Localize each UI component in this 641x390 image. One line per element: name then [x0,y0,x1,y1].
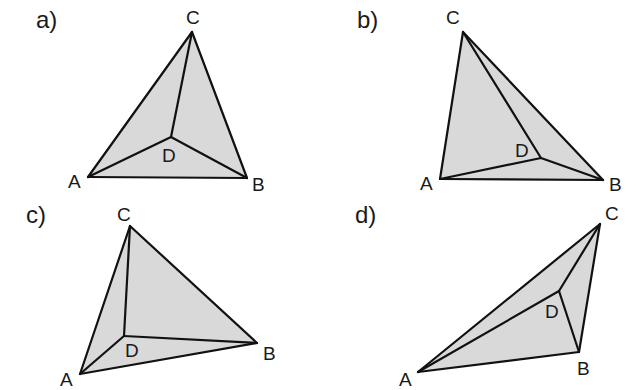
panel-label: c) [26,201,46,228]
vertex-label-c: C [186,7,200,28]
vertex-label-a: A [399,369,412,390]
vertex-label-a: A [60,369,73,390]
vertex-label-d: D [125,340,139,361]
vertex-label-a: A [420,173,433,194]
vertex-label-d: D [545,301,559,322]
panel-a: ABCDa) [36,6,265,195]
panel-label: b) [357,6,378,33]
vertex-label-a: A [68,171,81,192]
panel-c: ABCDc) [26,201,276,390]
vertex-label-b: B [577,358,590,379]
vertex-label-c: C [446,7,460,28]
vertex-label-b: B [263,343,276,364]
vertex-label-b: B [609,174,622,195]
panel-d: ABCDd) [355,201,619,390]
vertex-label-d: D [162,145,176,166]
panel-label: a) [36,6,57,33]
vertex-label-d: D [515,140,529,161]
panel-label: d) [355,201,376,228]
vertex-label-b: B [252,174,265,195]
segment-ab [440,179,603,180]
vertex-label-c: C [117,204,131,225]
panel-b: ABCDb) [357,6,622,195]
triangle-diagrams: ABCDa)ABCDb)ABCDc)ABCDd) [0,0,641,390]
segment-ab [88,177,247,178]
vertex-label-c: C [605,203,619,224]
